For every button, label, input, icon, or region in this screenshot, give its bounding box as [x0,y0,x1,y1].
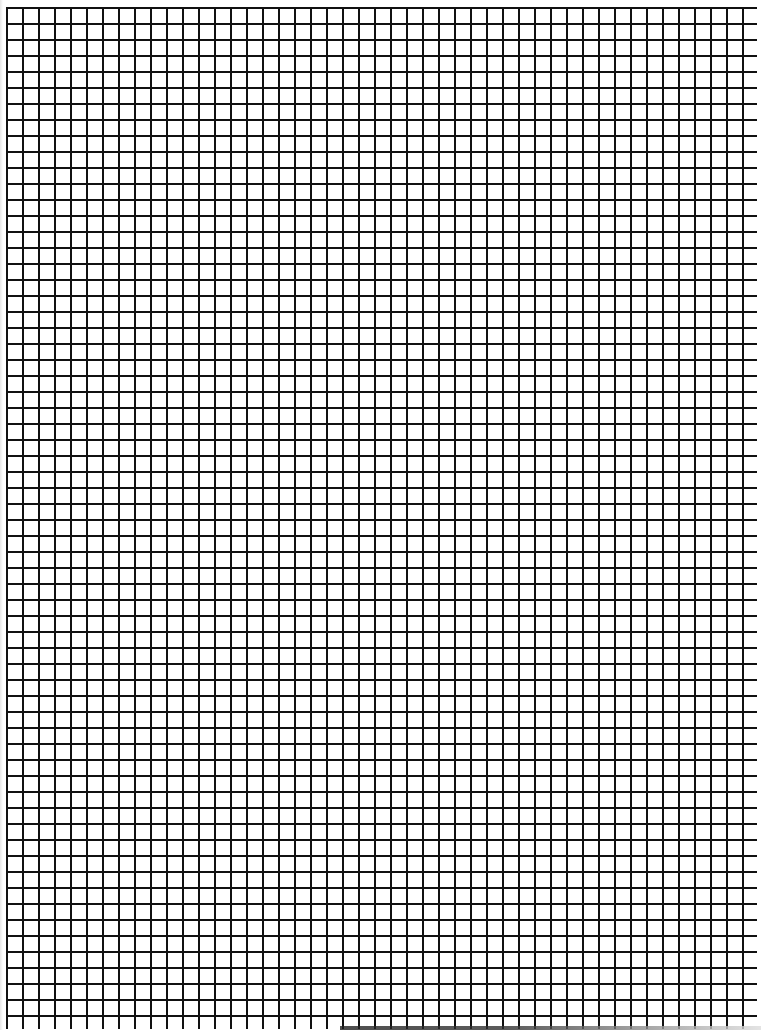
bottom-edge-shadow [340,1026,761,1030]
grid-lines [6,7,757,1029]
grid-paper-sheet [0,0,761,1030]
left-edge-shadow [0,0,3,1030]
